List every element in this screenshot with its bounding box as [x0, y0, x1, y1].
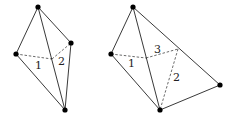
solid-edge [160, 85, 220, 110]
edge-label: 2 [58, 55, 65, 68]
edge-label: 3 [154, 43, 161, 56]
edge-label: 1 [128, 57, 135, 70]
dashed-edge [16, 54, 52, 59]
vertex-right [217, 82, 222, 87]
vertex-top [35, 4, 40, 9]
vertex-bottom [62, 107, 67, 112]
dashed-edge [146, 49, 178, 58]
edge-label: 1 [35, 59, 42, 72]
left-tetrahedron: 12 [13, 4, 73, 112]
vertex-right [68, 40, 73, 45]
vertex-left [108, 51, 113, 56]
vertex-top [130, 4, 135, 9]
tetrahedra-diagram: 12 132 [0, 0, 234, 118]
vertex-bottom [157, 107, 162, 112]
vertex-left [13, 51, 18, 56]
solid-edge [111, 7, 133, 54]
solid-edge [16, 7, 38, 54]
right-tetrahedron: 132 [108, 4, 222, 112]
solid-edge [65, 43, 71, 110]
edge-label: 2 [173, 71, 180, 84]
